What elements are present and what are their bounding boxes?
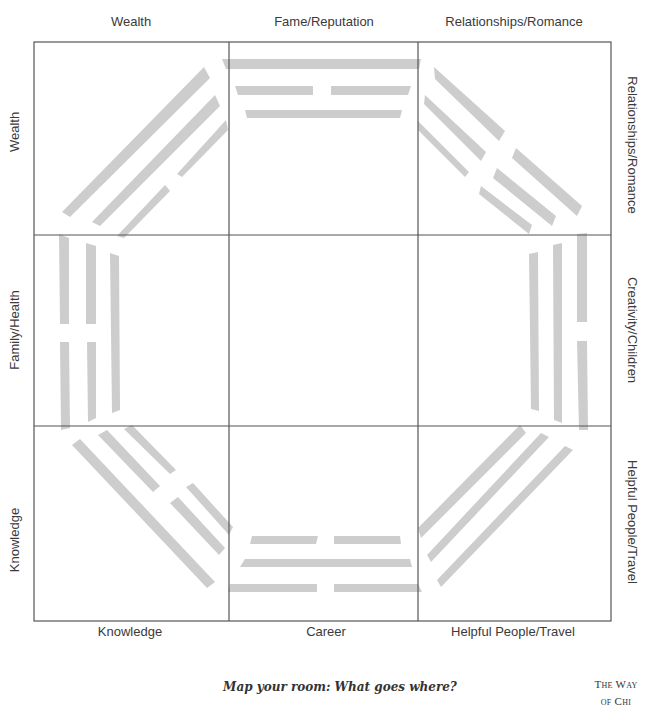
trigram-bottom-line-middle (240, 559, 412, 567)
trigram-bottom-line-outer-a (228, 584, 317, 592)
trigram-bottomright-line-middle (427, 433, 549, 562)
caption: Map your room: What goes where? (223, 680, 457, 694)
trigram-left-line-middle-b (87, 342, 96, 422)
bottom-label-career: Career (306, 624, 346, 639)
trigram-bottom-line-outer-b (334, 584, 422, 592)
trigram-bottomleft-line-middle-a (98, 430, 160, 492)
trigram-topleft-line-outer (62, 67, 210, 217)
trigram-bottom-line-inner-b (334, 536, 401, 544)
bagua-grid (0, 0, 653, 716)
trigram-bars (59, 59, 588, 592)
trigram-bottom-line-inner-a (250, 536, 318, 544)
trigram-top-line-middle-b (331, 86, 411, 95)
grid-border (34, 42, 611, 621)
trigram-top-line-inner (245, 110, 402, 118)
top-label-relationships: Relationships/Romance (445, 14, 582, 29)
top-label-fame: Fame/Reputation (274, 14, 374, 29)
top-label-wealth: Wealth (111, 14, 151, 29)
left-label-wealth: Wealth (7, 112, 22, 152)
trigram-right-line-outer-b (577, 341, 588, 430)
trigram-right-line-outer-a (577, 233, 587, 322)
right-label-relationships: Relationships/Romance (625, 76, 640, 213)
trigram-left-line-outer-b (60, 342, 70, 430)
trigram-left-line-outer-a (59, 234, 69, 324)
brand-line-1: The Way (586, 676, 646, 693)
grid-lines (34, 42, 611, 621)
trigram-left-line-middle-a (86, 243, 96, 324)
trigram-topleft-line-middle (92, 95, 220, 226)
trigram-topright-line-outer-b (512, 148, 582, 216)
trigram-topright-line-middle-a (424, 95, 486, 161)
trigram-top-line-outer (222, 59, 421, 69)
trigram-right-line-middle (553, 243, 562, 423)
right-label-helpful-people: Helpful People/Travel (625, 460, 640, 584)
trigram-bottomright-line-inner (437, 446, 573, 587)
bottom-label-knowledge: Knowledge (98, 624, 162, 639)
left-label-knowledge: Knowledge (7, 508, 22, 572)
trigram-left-line-inner (110, 253, 120, 413)
trigram-bottomright-line-outer (418, 425, 526, 538)
right-label-creativity: Creativity/Children (625, 277, 640, 383)
brand-line-2: of Chi (586, 693, 646, 710)
brand-mark: The Way of Chi (586, 676, 646, 710)
trigram-bottomleft-line-outer (72, 439, 215, 588)
left-label-family-health: Family/Health (7, 290, 22, 369)
trigram-top-line-middle-a (235, 86, 313, 95)
trigram-right-line-inner (529, 252, 539, 411)
bottom-label-helpful-people: Helpful People/Travel (451, 624, 575, 639)
trigram-topright-line-outer-a (434, 67, 505, 141)
